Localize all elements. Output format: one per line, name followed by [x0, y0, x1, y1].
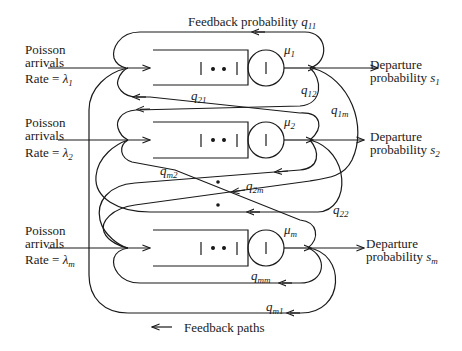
queue-2-arrival-label: Poisson arrivals [25, 116, 65, 142]
queue-1 [48, 50, 378, 86]
queue-m [48, 230, 364, 266]
queue-1-dot-b [223, 68, 226, 71]
ellipsis-dot-upper [216, 180, 220, 184]
feedback-label-qmm: qmm [251, 269, 271, 287]
queue-1-arrival-label: Poisson arrivals [25, 43, 65, 69]
queue-m-service-rate: μm [284, 223, 297, 241]
ellipsis-dot-lower [216, 203, 220, 207]
feedback-label-q22: q22 [333, 203, 349, 221]
feedback-label-q1m: q1m [331, 103, 349, 121]
queue-1-dot-a [212, 68, 215, 71]
legend-feedback-paths-label: Feedback paths [184, 321, 265, 334]
feedback-label-q21: q21 [191, 89, 207, 107]
queue-2 [58, 122, 364, 158]
queue-2-service-rate: μ2 [284, 115, 295, 133]
queue-m-rate-label: Rate = λm [25, 253, 75, 271]
feedback-label-q12: q12 [301, 83, 317, 101]
queue-2-departure-label: Departure probability s2 [370, 130, 440, 161]
feedback-label-q2m: q2m [246, 179, 264, 197]
queue-2-rate-label: Rate = λ2 [25, 146, 73, 164]
queue-1-service-rate: μ1 [284, 43, 295, 61]
queue-1-rate-label: Rate = λ1 [25, 72, 73, 90]
queue-m-arrival-label: Poisson arrivals [25, 224, 65, 250]
queue-1-departure-label: Departure probability s1 [370, 58, 440, 89]
feedback-path-qm1 [89, 68, 336, 313]
queue-network-diagram [0, 0, 462, 351]
feedback-label-q11: Feedback probability q11 [188, 15, 316, 33]
feedback-label-qm2: qm2 [160, 164, 178, 182]
feedback-label-qm1: qm1 [266, 300, 284, 318]
queue-m-departure-label: Departure probability sm [366, 237, 438, 268]
